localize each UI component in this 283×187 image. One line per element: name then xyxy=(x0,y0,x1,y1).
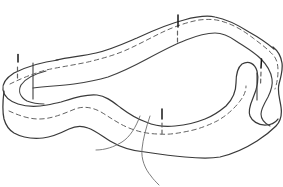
pin-bottom xyxy=(160,105,165,136)
pin-head-icon xyxy=(16,50,21,55)
front-basting-stitch-dashes xyxy=(9,86,246,134)
pin-shaft xyxy=(261,59,262,68)
band-top-edge-loop-line xyxy=(3,60,278,126)
pin-left xyxy=(16,50,21,80)
band-outer-silhouette-line xyxy=(3,47,282,158)
top-basting-stitch-dashes xyxy=(10,19,278,89)
band-diagram-canvas xyxy=(0,0,283,187)
pin-shaft-hidden-dashes xyxy=(261,72,262,85)
band-far-top-edge-line xyxy=(56,16,274,60)
pin-right xyxy=(260,55,265,85)
band-illustration xyxy=(0,0,283,187)
thread-curve-right xyxy=(142,116,159,185)
